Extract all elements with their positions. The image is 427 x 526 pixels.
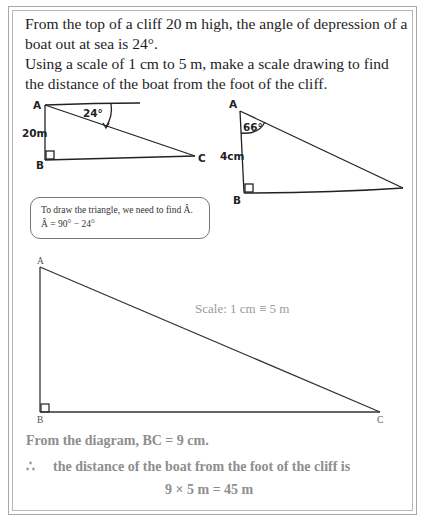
- sketch2-height-label: 4cm: [220, 150, 245, 162]
- sketch1-vertex-c: C: [198, 152, 206, 164]
- solution-line-1: From the diagram, BC = 9 cm.: [26, 433, 209, 449]
- scale-vertex-c: C: [377, 415, 383, 425]
- solution-line-2: ∴the distance of the boat from the foot …: [26, 458, 350, 475]
- sketch-1-triangle: [45, 103, 195, 160]
- solution-line-2-text: the distance of the boat from the foot o…: [53, 459, 350, 474]
- scale-vertex-b: B: [37, 415, 43, 425]
- note-line-1: To draw the triangle, we need to find Â.: [41, 203, 209, 217]
- sketch2-angle-label: 66°: [243, 121, 263, 133]
- sketch1-angle-label: 24°: [83, 107, 103, 119]
- sketch2-vertex-a: A: [229, 98, 238, 110]
- scale-label: Scale: 1 cm ≡ 5 m: [195, 301, 289, 317]
- therefore-symbol: ∴: [26, 458, 53, 475]
- sketch2-vertex-b: B: [233, 194, 241, 206]
- sketch1-vertex-b: B: [36, 159, 44, 171]
- scale-vertex-a: A: [37, 256, 44, 266]
- sketch1-vertex-a: A: [33, 99, 42, 111]
- note-line-2: Â = 90° − 24°: [41, 217, 209, 231]
- solution-result: 9 × 5 m = 45 m: [165, 482, 253, 498]
- note-box: To draw the triangle, we need to find Â.…: [30, 197, 210, 239]
- scale-drawing-triangle: [40, 267, 380, 412]
- sketch-2-triangle: [240, 111, 403, 193]
- sketch1-height-label: 20m: [22, 127, 48, 139]
